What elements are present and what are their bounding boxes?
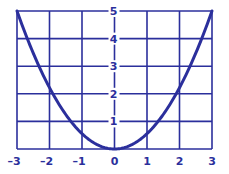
x-tick-label: –2: [40, 155, 53, 168]
y-tick-label: 5: [110, 5, 118, 18]
x-axis-labels: –3–2–10123: [7, 155, 215, 168]
x-tick-label: –1: [72, 155, 85, 168]
x-tick-label: 1: [143, 155, 151, 168]
x-tick-label: 0: [111, 155, 119, 168]
y-tick-label: 3: [110, 60, 118, 73]
x-tick-label: 2: [176, 155, 184, 168]
y-tick-label: 2: [110, 88, 118, 101]
y-tick-label: 1: [110, 115, 118, 128]
x-tick-label: –3: [7, 155, 20, 168]
x-tick-label: 3: [208, 155, 216, 168]
parabola-chart: 12345 –3–2–10123: [0, 0, 229, 174]
y-tick-label: 4: [110, 33, 118, 46]
